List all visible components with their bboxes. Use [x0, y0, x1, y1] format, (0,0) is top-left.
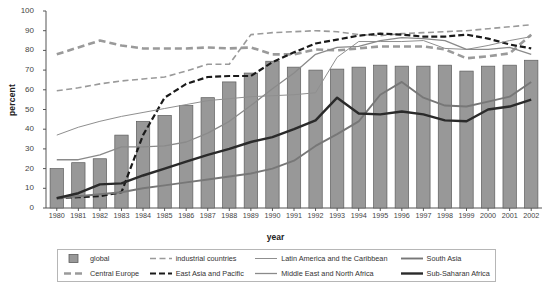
- legend-label: Latin America and the Caribbean: [281, 254, 387, 263]
- chart-figure: percent 0102030405060708090100 198019811…: [0, 0, 551, 285]
- legend-swatch-icon: [64, 254, 86, 263]
- legend-label: Middle East and North Africa: [281, 269, 373, 278]
- bar: [223, 82, 236, 208]
- bar: [330, 69, 343, 208]
- bar: [352, 67, 365, 208]
- legend-label: South Asia: [427, 254, 462, 263]
- legend-item: industrial countries: [144, 250, 250, 266]
- legend-swatch-icon: [150, 254, 172, 263]
- legend-item: Latin America and the Caribbean: [249, 250, 394, 266]
- legend-swatch-icon: [255, 269, 277, 278]
- bar: [179, 106, 192, 208]
- legend-row: globalindustrial countriesLatin America …: [58, 250, 495, 266]
- bar: [287, 67, 300, 208]
- bar: [438, 65, 451, 208]
- bar: [115, 135, 128, 208]
- bar: [309, 70, 322, 208]
- x-axis-label: year: [0, 232, 551, 242]
- plot-area: percent 0102030405060708090100 198019811…: [0, 0, 551, 240]
- legend-label: East Asia and Pacific: [176, 269, 244, 278]
- legend-item: Sub-Saharan Africa: [395, 266, 495, 282]
- bar: [374, 65, 387, 208]
- bar: [50, 169, 63, 208]
- legend-swatch-icon: [401, 254, 423, 263]
- bar: [503, 65, 516, 208]
- legend-item: Middle East and North Africa: [249, 266, 394, 282]
- legend-item: global: [58, 250, 144, 266]
- legend-swatch-icon: [150, 269, 172, 278]
- legend-swatch-icon: [64, 269, 86, 278]
- bar: [395, 66, 408, 208]
- bar: [72, 163, 85, 208]
- legend-item: Central Europe: [58, 266, 144, 282]
- legend-label: Central Europe: [90, 269, 139, 278]
- x-tick-label: 2002: [518, 211, 544, 220]
- legend-item: East Asia and Pacific: [144, 266, 250, 282]
- legend-label: global: [90, 254, 109, 263]
- legend-label: industrial countries: [176, 254, 237, 263]
- legend-label: Sub-Saharan Africa: [427, 269, 490, 278]
- legend-swatch-icon: [401, 269, 423, 278]
- legend-row: Central EuropeEast Asia and PacificMiddl…: [58, 266, 495, 282]
- bar: [481, 66, 494, 208]
- chart-legend: globalindustrial countriesLatin America …: [57, 249, 496, 282]
- bar: [417, 66, 430, 208]
- chart-canvas: [0, 0, 551, 240]
- legend-swatch-icon: [255, 254, 277, 263]
- bar: [460, 71, 473, 208]
- legend-item: South Asia: [395, 250, 495, 266]
- bar: [158, 115, 171, 208]
